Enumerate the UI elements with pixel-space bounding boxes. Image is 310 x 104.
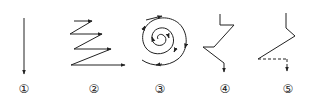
panel-label-1: ① bbox=[14, 82, 34, 96]
panel-label-5: ⑤ bbox=[278, 82, 298, 96]
path-spiral-icon bbox=[142, 16, 186, 65]
path-zigzag-icon bbox=[70, 21, 125, 65]
path-dashed-angular-icon bbox=[258, 13, 295, 71]
panel-label-4: ④ bbox=[215, 82, 235, 96]
path-angular-icon bbox=[203, 14, 234, 72]
panel-label-3: ③ bbox=[150, 82, 170, 96]
panel-label-2: ② bbox=[84, 82, 104, 96]
